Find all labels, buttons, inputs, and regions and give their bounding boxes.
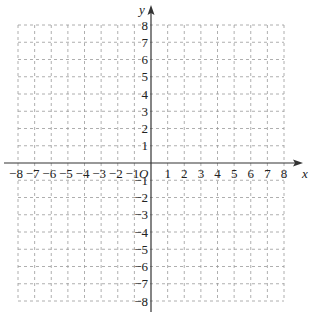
y-tick-label: −2 <box>134 190 148 205</box>
x-tick-label: 4 <box>214 166 221 181</box>
coordinate-plane: −8−7−6−5−4−3−2−112345678 87654321−1−2−3−… <box>0 0 312 317</box>
x-axis-label: x <box>301 166 308 181</box>
y-tick-label: 3 <box>142 104 149 119</box>
x-tick-label: 6 <box>248 166 255 181</box>
y-tick-label: 5 <box>142 69 149 84</box>
x-tick-label: −8 <box>9 166 23 181</box>
x-tick-label: 8 <box>281 166 288 181</box>
x-tick-label: −6 <box>42 166 56 181</box>
y-tick-label: −8 <box>134 294 148 309</box>
x-tick-label: −2 <box>109 166 123 181</box>
x-tick-label: −4 <box>76 166 90 181</box>
axes <box>4 5 303 312</box>
origin-label: O <box>139 166 149 181</box>
y-tick-label: −7 <box>134 276 148 291</box>
y-tick-label: 1 <box>142 138 149 153</box>
y-tick-label: 2 <box>142 121 149 136</box>
y-tick-label: 8 <box>142 18 149 33</box>
x-tick-label: −5 <box>59 166 73 181</box>
y-tick-label: −4 <box>134 225 148 240</box>
x-tick-label: 5 <box>231 166 238 181</box>
x-tick-label: 7 <box>264 166 271 181</box>
y-tick-label: 7 <box>142 35 149 50</box>
y-tick-label: −3 <box>134 207 148 222</box>
y-tick-label: 6 <box>142 52 149 67</box>
y-axis-label: y <box>137 2 145 17</box>
x-tick-label: −3 <box>92 166 106 181</box>
y-tick-label: 4 <box>142 87 149 102</box>
x-tick-label: 2 <box>181 166 188 181</box>
x-tick-label: 3 <box>198 166 205 181</box>
x-tick-label: −7 <box>26 166 40 181</box>
x-tick-label: 1 <box>164 166 171 181</box>
y-tick-label: −5 <box>134 242 148 257</box>
y-tick-label: −6 <box>134 259 148 274</box>
